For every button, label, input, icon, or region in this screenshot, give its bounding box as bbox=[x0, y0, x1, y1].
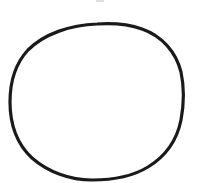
drawing-canvas bbox=[0, 0, 214, 183]
top-edge-mark bbox=[96, 0, 104, 2]
circle-drawing bbox=[0, 0, 214, 183]
circle-outline bbox=[10, 24, 183, 180]
